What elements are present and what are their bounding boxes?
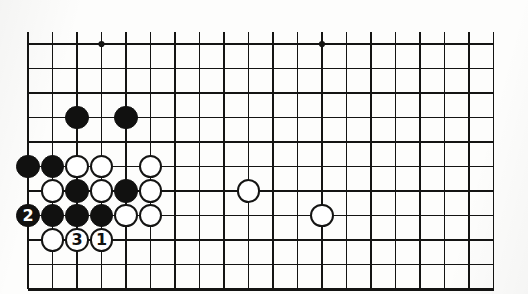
stone-white bbox=[310, 204, 334, 228]
move-number-2: 2 bbox=[17, 205, 39, 227]
stone-black bbox=[114, 179, 138, 203]
move-number-3: 3 bbox=[67, 230, 87, 250]
move-number-1: 1 bbox=[92, 230, 112, 250]
stone-white-3: 3 bbox=[65, 228, 89, 252]
stone-white bbox=[139, 179, 163, 203]
stone-black bbox=[16, 155, 40, 179]
stone-white bbox=[41, 228, 65, 252]
stone-black-2: 2 bbox=[16, 204, 40, 228]
stone-white-1: 1 bbox=[90, 228, 114, 252]
stone-black bbox=[65, 179, 89, 203]
stone-white bbox=[65, 155, 89, 179]
stone-white bbox=[90, 179, 114, 203]
stone-white bbox=[237, 179, 261, 203]
stone-white bbox=[41, 179, 65, 203]
stone-black bbox=[65, 204, 89, 228]
stone-black bbox=[114, 106, 138, 130]
stone-white bbox=[114, 204, 138, 228]
stone-black bbox=[65, 106, 89, 130]
go-board-diagram: 231 bbox=[0, 0, 528, 294]
